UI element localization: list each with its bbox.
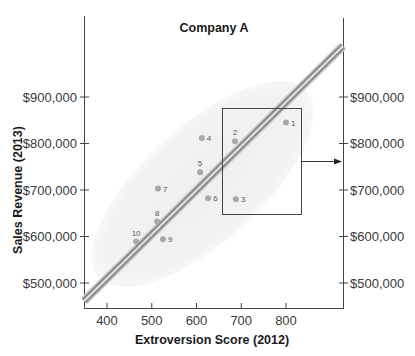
point-label: 10 (132, 229, 141, 238)
right-y-tick-label: $900,000 (350, 90, 404, 105)
point-label: 7 (163, 185, 168, 194)
data-point-8: 8 (154, 209, 160, 225)
x-ticks: 400500600700800 (96, 303, 297, 328)
point-marker (197, 169, 203, 175)
chart-title: Company A (180, 21, 249, 35)
y-tick-label: $500,000 (23, 276, 77, 291)
right-y-tick-label: $700,000 (350, 183, 404, 198)
point-marker (155, 186, 161, 192)
point-marker (160, 236, 166, 242)
point-label: 1 (291, 119, 296, 128)
point-label: 5 (198, 159, 203, 168)
data-point-2: 2 (232, 128, 238, 144)
point-label: 4 (207, 134, 212, 143)
point-marker (133, 239, 139, 245)
x-tick-label: 500 (141, 313, 163, 328)
x-axis-title: Extroversion Score (2012) (135, 333, 289, 347)
y-tick-label: $800,000 (23, 136, 77, 151)
x-tick-label: 400 (96, 313, 118, 328)
left-y-ticks: $500,000$600,000$700,000$800,000$900,000 (23, 90, 89, 291)
arrow-to-right-axis (301, 159, 342, 165)
point-label: 2 (233, 128, 238, 137)
right-y-ticks: $500,000$600,000$700,000$800,000$900,000 (339, 90, 404, 291)
right-y-tick-label: $600,000 (350, 229, 404, 244)
point-marker (205, 195, 211, 201)
regression-line (84, 46, 343, 301)
y-axis-title: Sales Revenue (2013) (11, 126, 25, 254)
point-marker (232, 138, 238, 144)
point-marker (199, 135, 205, 141)
point-label: 3 (241, 195, 246, 204)
right-y-tick-label: $800,000 (350, 136, 404, 151)
point-marker (154, 219, 160, 225)
scatter-chart: $500,000$600,000$700,000$800,000$900,000… (0, 0, 415, 356)
y-tick-label: $600,000 (23, 229, 77, 244)
point-label: 9 (168, 235, 173, 244)
point-marker (233, 196, 239, 202)
x-tick-label: 800 (275, 313, 297, 328)
point-label: 8 (155, 209, 160, 218)
y-tick-label: $700,000 (23, 183, 77, 198)
data-point-5: 5 (197, 159, 203, 175)
y-tick-label: $900,000 (23, 90, 77, 105)
x-tick-label: 600 (186, 313, 208, 328)
right-y-tick-label: $500,000 (350, 276, 404, 291)
point-marker (283, 120, 289, 126)
point-label: 6 (213, 194, 218, 203)
x-tick-label: 700 (230, 313, 252, 328)
